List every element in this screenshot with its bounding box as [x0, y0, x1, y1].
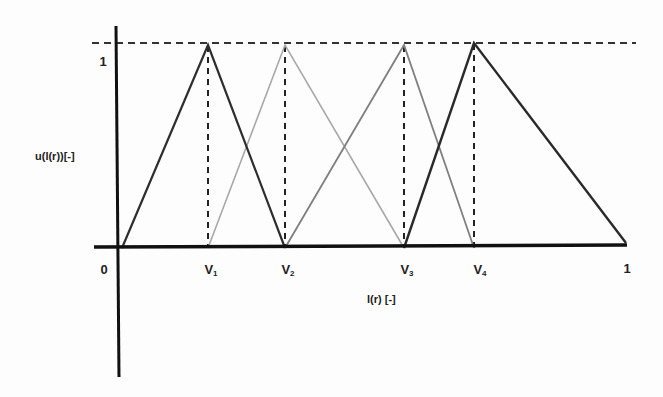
- x-tick-label-v3: V3: [400, 262, 413, 278]
- tick-main: V: [281, 262, 290, 277]
- x-tick-label-v4: V4: [473, 262, 486, 278]
- tick-subscript: 1: [213, 269, 217, 278]
- vertical-reference-lines: [208, 44, 474, 248]
- tick-main: V: [204, 262, 213, 277]
- tick-subscript: 3: [409, 269, 413, 278]
- tick-main: 1: [623, 261, 630, 276]
- y-axis: [116, 26, 119, 377]
- x-axis-title: l(r) [-]: [367, 293, 396, 305]
- membership-function-3: [285, 45, 474, 248]
- tick-main: 0: [100, 262, 107, 277]
- membership-function-4: [404, 43, 626, 248]
- x-axis: [94, 245, 627, 247]
- tick-subscript: 4: [482, 269, 486, 278]
- fuzzy-membership-figure: 1 u(l(r))[-] 0 V1 V2 V3 V4 1 l(r) [-]: [0, 0, 663, 397]
- y-axis-title: u(l(r))[-]: [35, 150, 75, 162]
- membership-function-1: [122, 45, 285, 248]
- x-tick-label-v1: V1: [204, 262, 217, 278]
- x-tick-label-0: 0: [100, 262, 107, 277]
- x-tick-label-v2: V2: [281, 262, 294, 278]
- membership-function-2: [208, 45, 404, 248]
- y-tick-label-1: 1: [99, 54, 106, 69]
- tick-subscript: 2: [290, 269, 294, 278]
- x-tick-label-1: 1: [623, 261, 630, 276]
- tick-main: V: [400, 262, 409, 277]
- tick-main: V: [473, 262, 482, 277]
